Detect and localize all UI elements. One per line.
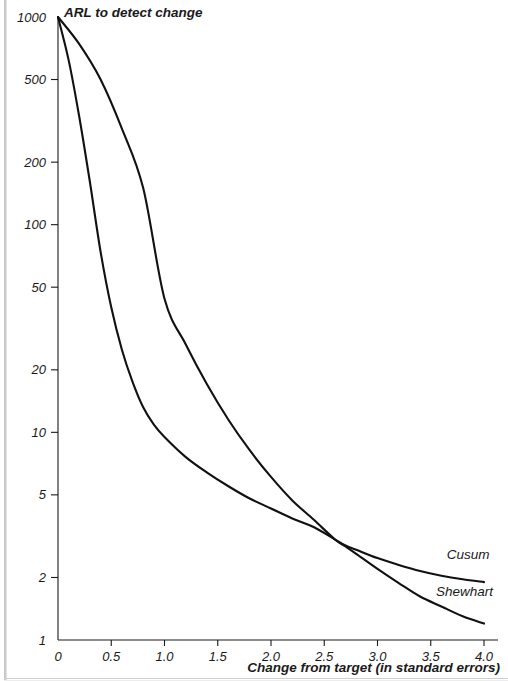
x-tick-label: 1.5 — [209, 649, 228, 664]
y-tick-label: 500 — [24, 72, 46, 87]
x-tick-label: 0 — [54, 649, 62, 664]
y-tick-label: 10 — [32, 425, 47, 440]
series-curve-cusum — [58, 17, 484, 582]
y-tick-label: 1000 — [17, 10, 47, 25]
x-tick-label: 1.0 — [155, 649, 174, 664]
x-axis-title: Change from target (in standard errors) — [247, 660, 500, 675]
chart-figure: ARL to detect change 1251020501002005001… — [0, 0, 508, 681]
series-label-shewhart: Shewhart — [436, 584, 494, 599]
y-tick-label: 200 — [23, 155, 46, 170]
y-axis-ticks: 1251020501002005001000 — [17, 10, 58, 648]
y-tick-label: 1 — [39, 633, 46, 648]
data-series-group — [58, 17, 484, 624]
y-tick-label: 5 — [39, 487, 47, 502]
y-tick-label: 50 — [32, 280, 47, 295]
arl-log-line-chart: ARL to detect change 1251020501002005001… — [0, 0, 508, 681]
series-curve-shewhart — [58, 17, 484, 624]
chart-title: ARL to detect change — [63, 5, 203, 20]
x-tick-label: 0.5 — [102, 649, 121, 664]
series-annotations: CusumShewhart — [436, 547, 494, 599]
y-tick-label: 20 — [31, 362, 47, 377]
series-label-cusum: Cusum — [447, 547, 490, 562]
y-tick-label: 2 — [38, 570, 47, 585]
y-tick-label: 100 — [24, 217, 46, 232]
